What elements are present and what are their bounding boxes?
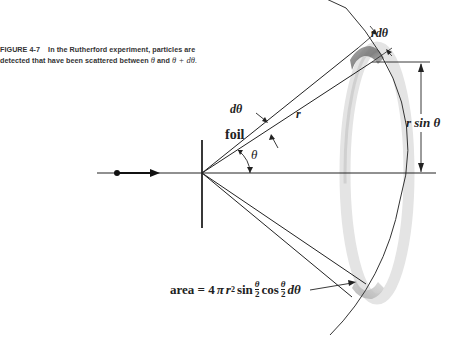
area-frac-1: θ 2	[255, 280, 260, 299]
r-dtheta-label: rdθ	[371, 27, 388, 39]
rutherford-scattering-figure: FIGURE 4-7 In the Rutherford experiment,…	[0, 0, 454, 339]
caption-theta-plus-dtheta: θ + dθ.	[172, 55, 197, 65]
theta-label: θ	[251, 148, 257, 161]
caption-line1: In the Rutherford experiment, particles …	[48, 45, 195, 54]
area-pi: π	[217, 282, 224, 298]
frac-denominator: 2	[281, 289, 286, 299]
dtheta-label: dθ	[230, 103, 242, 115]
caption-theta: θ	[151, 55, 155, 65]
figure-number: FIGURE 4-7	[0, 45, 40, 54]
incident-beam	[97, 169, 202, 177]
area-formula: area = 4 π r 2 sin θ 2 cos θ 2 dθ	[170, 280, 301, 299]
frac-denominator: 2	[255, 289, 260, 299]
caption-and: and	[157, 56, 170, 65]
area-sin: sin	[237, 282, 253, 298]
frac-numerator: θ	[281, 280, 286, 289]
r-sin-theta-label: r sin θ	[406, 116, 440, 129]
area-cos: cos	[261, 282, 278, 298]
foil-label: foil	[225, 128, 244, 142]
figure-caption: FIGURE 4-7 In the Rutherford experiment,…	[0, 44, 240, 66]
area-exponent: 2	[231, 285, 235, 294]
r-sin-theta-text: r sin θ	[406, 115, 440, 130]
r-label: r	[296, 108, 301, 120]
frac-numerator: θ	[255, 280, 260, 289]
area-prefix: area = 4	[170, 282, 215, 298]
area-frac-2: θ 2	[281, 280, 286, 299]
caption-line2: detected that have been scattered betwee…	[0, 56, 149, 65]
area-dtheta: dθ	[287, 282, 300, 298]
